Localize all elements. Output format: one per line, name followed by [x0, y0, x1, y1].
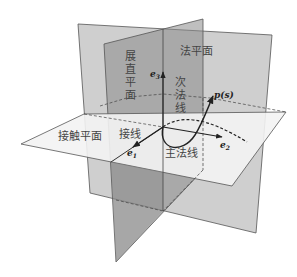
rectifying-plane-label-4: 面	[125, 89, 136, 102]
frenet-frame-diagram: 展 直 平 面 法平面 次 法 线 接触平面 接线 主法线 e3 e2 e1 p…	[0, 0, 297, 277]
rectifying-plane-label-2: 直	[125, 62, 136, 76]
normal-plane-label: 法平面	[180, 44, 213, 58]
curve-label: p(s)	[214, 90, 234, 100]
osculating-plane-label: 接触平面	[58, 129, 102, 143]
principal-normal-label: 主法线	[165, 146, 198, 160]
rectifying-plane-label-1: 展	[125, 50, 136, 63]
binormal-label-1: 次	[175, 75, 186, 89]
tangent-label: 接线	[119, 127, 141, 141]
rectifying-plane-label-3: 平	[125, 76, 136, 89]
binormal-label-2: 法	[175, 88, 186, 102]
rectifying-plane-front-lower	[111, 162, 163, 262]
diagram-svg: 展 直 平 面 法平面 次 法 线 接触平面 接线 主法线 e3 e2 e1 p…	[0, 0, 297, 277]
binormal-label-3: 线	[175, 101, 186, 115]
